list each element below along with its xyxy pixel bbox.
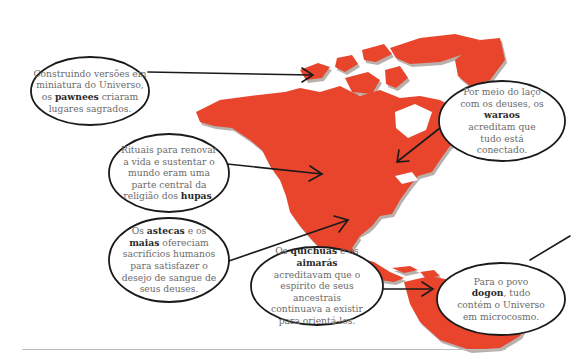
bubble-text: Para o povo dogon, tudo contém o Univers… bbox=[455, 276, 547, 322]
bubble-text: Os quíchuas e os aimarás acreditavam que… bbox=[267, 245, 367, 326]
bubble-text: Por meio do laço com os deuses, os warao… bbox=[459, 86, 545, 156]
speech-bubble-pawnees: Construindo versões em miniatura do Univ… bbox=[30, 56, 150, 126]
bubble-text: Construindo versões em miniatura do Univ… bbox=[30, 68, 150, 114]
speech-bubble-quichuas-aimaras: Os quíchuas e os aimarás acreditavam que… bbox=[250, 246, 384, 326]
speech-bubble-waraos: Por meio do laço com os deuses, os warao… bbox=[438, 80, 566, 162]
bubble-text: Rituais para renovar a vida e sustentar … bbox=[121, 144, 217, 202]
bottom-rule bbox=[22, 349, 506, 350]
bubble-text: Os astecas e os maias ofereciam sacrifíc… bbox=[121, 225, 217, 295]
speech-bubble-astecas-maias: Os astecas e os maias ofereciam sacrifíc… bbox=[108, 217, 230, 303]
speech-bubble-hupas: Rituais para renovar a vida e sustentar … bbox=[108, 133, 230, 213]
speech-bubble-dogon: Para o povo dogon, tudo contém o Univers… bbox=[436, 262, 566, 336]
